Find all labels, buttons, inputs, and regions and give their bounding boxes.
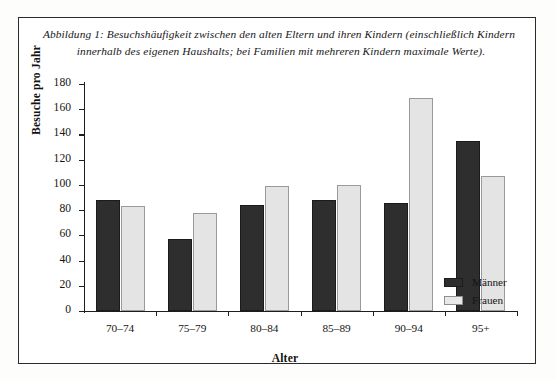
y-axis-tick-label: 0 [65,303,71,316]
x-axis-tick-label: 70–74 [106,322,134,334]
y-axis-tick: 160 [79,109,84,110]
legend-item-frauen: Frauen [444,291,507,309]
chart-legend: MännerFrauen [444,273,507,309]
y-axis-tick-label: 160 [54,101,71,114]
legend-swatch-icon [444,278,463,287]
legend-swatch-icon [444,296,463,305]
y-axis-tick: 140 [79,134,84,135]
legend-label: Frauen [472,294,503,306]
x-axis-tick-label: 85–89 [322,322,350,334]
y-axis-tick-label: 180 [54,76,71,89]
y-axis-tick: 60 [79,235,84,236]
legend-label: Männer [472,276,507,288]
bar-männer-80–84 [240,205,264,311]
x-axis-tick [445,311,446,316]
y-axis-tick: 120 [79,160,84,161]
x-axis-tick [156,311,157,316]
y-axis-tick-label: 60 [59,227,71,240]
legend-item-männer: Männer [444,273,507,291]
y-axis-tick: 80 [79,210,84,211]
y-axis-tick: 40 [79,261,84,262]
bar-frauen-70–74 [121,206,145,311]
x-axis-tick-label: 90–94 [395,322,423,334]
x-axis-tick-label: 80–84 [250,322,278,334]
y-axis-tick: 0 [79,311,84,312]
y-axis-tick-label: 40 [59,253,71,266]
caption-line-1: Abbildung 1: Besuchshäufigkeit zwischen … [40,26,518,43]
y-axis-tick-label: 120 [54,152,71,165]
bar-männer-90–94 [384,203,408,312]
caption-line-2: innerhalb des eigenen Haushalts; bei Fam… [40,43,518,60]
x-axis-tick [517,311,518,316]
y-axis-tick: 180 [79,84,84,85]
x-axis-tick [301,311,302,316]
bar-frauen-90–94 [409,98,433,311]
y-axis-title: Besuche pro Jahr [30,45,43,135]
y-axis-line [84,82,85,313]
x-axis-tick [373,311,374,316]
x-axis-tick-label: 95+ [472,322,490,334]
y-axis-tick-label: 20 [59,278,71,291]
x-axis-title-text: Alter [272,352,299,365]
y-axis-tick: 20 [79,286,84,287]
bar-männer-70–74 [96,200,120,311]
y-axis-tick: 100 [79,185,84,186]
figure-caption: Abbildung 1: Besuchshäufigkeit zwischen … [40,26,518,59]
figure-root: Abbildung 1: Besuchshäufigkeit zwischen … [0,0,556,381]
bar-männer-75–79 [168,239,192,311]
x-axis-title: Alter [0,352,556,365]
y-axis-tick-label: 80 [59,202,71,215]
bar-frauen-80–84 [265,186,289,311]
bar-frauen-75–79 [193,213,217,311]
bar-männer-85–89 [312,200,336,311]
y-axis-tick-label: 140 [54,126,71,139]
x-axis-tick [228,311,229,316]
y-axis-tick-label: 100 [54,177,71,190]
x-axis-tick-label: 75–79 [178,322,206,334]
bar-frauen-85–89 [337,185,361,311]
